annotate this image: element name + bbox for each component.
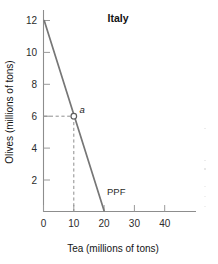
x-tick-label-0: 0 bbox=[41, 218, 47, 229]
x-tick-label-20: 20 bbox=[99, 218, 111, 229]
ppf-chart-figure: Italy 12 10 8 6 4 2 0 10 bbox=[0, 0, 218, 264]
ppf-series-label: PPF bbox=[107, 186, 126, 197]
x-tick-label-10: 10 bbox=[68, 218, 80, 229]
y-axis-ticks bbox=[44, 21, 51, 181]
chart-canvas: Italy 12 10 8 6 4 2 0 10 bbox=[0, 0, 218, 264]
scan-artifacts bbox=[204, 128, 206, 207]
y-tick-label-6: 6 bbox=[31, 111, 37, 122]
x-axis-title: Tea (millions of tons) bbox=[67, 243, 159, 254]
y-tick-label-2: 2 bbox=[31, 175, 37, 186]
y-axis-title: Olives (millions of tons) bbox=[4, 60, 15, 163]
point-a-marker bbox=[71, 113, 77, 119]
chart-title: Italy bbox=[107, 12, 128, 24]
y-tick-label-10: 10 bbox=[26, 47, 38, 58]
y-tick-label-4: 4 bbox=[31, 143, 37, 154]
point-a-label: a bbox=[80, 104, 85, 115]
x-tick-label-40: 40 bbox=[159, 218, 171, 229]
y-tick-label-12: 12 bbox=[26, 15, 38, 26]
x-tick-label-30: 30 bbox=[129, 218, 141, 229]
y-tick-label-8: 8 bbox=[31, 79, 37, 90]
